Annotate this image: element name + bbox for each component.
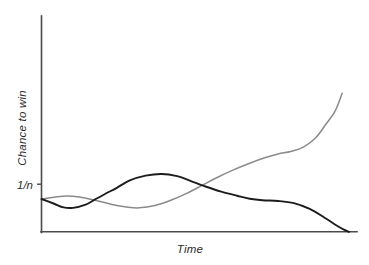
series-line-winning-player — [42, 93, 343, 208]
series-line-losing-player — [42, 174, 350, 232]
y-axis-label: Chance to win — [16, 90, 28, 165]
x-axis-label: Time — [177, 243, 203, 255]
chart-plot-area: 1/n Chance to win Time — [0, 0, 369, 265]
y-tick-label: 1/n — [17, 179, 33, 191]
chart-figure: 1/n Chance to win Time — [0, 0, 369, 265]
